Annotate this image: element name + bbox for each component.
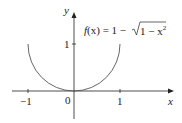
x-axis-label: x (168, 96, 173, 107)
y-axis-arrow-icon (72, 12, 77, 18)
tick-label-0: 0 (65, 95, 71, 106)
x-axis-arrow-icon (168, 89, 174, 94)
y-axis-label: y (64, 5, 69, 16)
sqrt-body-text: 1 − x (140, 25, 163, 37)
tick-label-y1: 1 (64, 39, 70, 50)
sqrt-body: 1 − x2 (140, 25, 166, 37)
tick-label-neg1: −1 (20, 96, 32, 107)
function-lhs: (x) = 1 − (87, 24, 126, 36)
function-label: f(x) = 1 − (84, 25, 126, 36)
tick-label-pos1: 1 (117, 96, 123, 107)
exponent: 2 (163, 24, 167, 32)
